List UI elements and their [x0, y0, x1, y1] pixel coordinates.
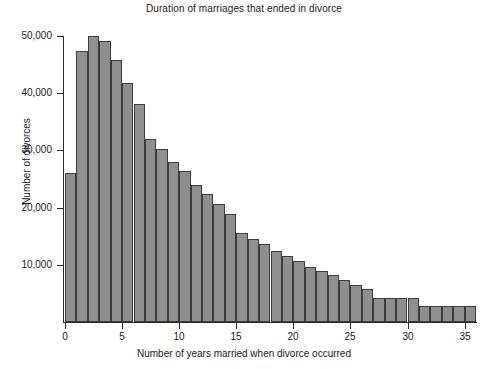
x-tick-label: 5 — [107, 331, 137, 342]
histogram-bar — [328, 275, 339, 322]
histogram-bar — [248, 239, 259, 323]
histogram-bar — [134, 104, 145, 323]
plot-area — [65, 36, 476, 322]
y-tick-label: 10,000 — [0, 259, 52, 270]
x-tick-mark — [293, 322, 294, 329]
histogram-bar — [396, 298, 407, 322]
y-tick-mark — [57, 265, 64, 266]
histogram-bar — [339, 280, 350, 322]
histogram-figure: Duration of marriages that ended in divo… — [0, 0, 488, 369]
histogram-bar — [65, 173, 76, 322]
y-tick-mark — [57, 208, 64, 209]
x-tick-label: 20 — [278, 331, 308, 342]
histogram-bar — [259, 244, 270, 322]
x-tick-label: 30 — [393, 331, 423, 342]
histogram-bar — [145, 139, 156, 322]
histogram-bar — [122, 83, 133, 322]
histogram-bar — [168, 162, 179, 322]
histogram-bar — [271, 251, 282, 322]
x-tick-mark — [350, 322, 351, 329]
histogram-bar — [453, 306, 464, 322]
x-tick-mark — [465, 322, 466, 329]
histogram-bar — [282, 256, 293, 322]
x-tick-mark — [236, 322, 237, 329]
x-tick-label: 0 — [50, 331, 80, 342]
histogram-bar — [76, 51, 87, 322]
histogram-bar — [373, 298, 384, 322]
histogram-bar — [385, 298, 396, 322]
x-axis-title: Number of years married when divorce occ… — [0, 348, 488, 359]
histogram-bar — [430, 306, 441, 322]
y-tick-mark — [57, 93, 64, 94]
y-tick-mark — [57, 36, 64, 37]
histogram-bar — [236, 233, 247, 322]
histogram-bar — [88, 36, 99, 322]
y-tick-label: 50,000 — [0, 30, 52, 41]
x-tick-label: 15 — [221, 331, 251, 342]
x-tick-mark — [122, 322, 123, 329]
histogram-bar — [350, 285, 361, 322]
x-axis-line — [63, 322, 477, 323]
x-tick-mark — [179, 322, 180, 329]
x-tick-label: 35 — [450, 331, 480, 342]
bars-layer — [65, 36, 476, 322]
histogram-bar — [225, 214, 236, 322]
y-axis-line — [63, 36, 64, 323]
chart-title: Duration of marriages that ended in divo… — [0, 3, 488, 14]
histogram-bar — [111, 60, 122, 322]
histogram-bar — [99, 41, 110, 322]
histogram-bar — [465, 306, 476, 322]
histogram-bar — [156, 149, 167, 322]
y-axis-title: Number of divorces — [21, 92, 32, 232]
histogram-bar — [202, 194, 213, 322]
histogram-bar — [419, 306, 430, 322]
histogram-bar — [179, 171, 190, 322]
histogram-bar — [442, 306, 453, 322]
x-tick-label: 25 — [335, 331, 365, 342]
histogram-bar — [305, 267, 316, 322]
histogram-bar — [408, 298, 419, 322]
y-tick-mark — [57, 150, 64, 151]
histogram-bar — [213, 204, 224, 322]
histogram-bar — [191, 185, 202, 322]
x-tick-label: 10 — [164, 331, 194, 342]
x-tick-mark — [408, 322, 409, 329]
histogram-bar — [316, 271, 327, 322]
histogram-bar — [293, 261, 304, 322]
histogram-bar — [362, 289, 373, 322]
x-tick-mark — [65, 322, 66, 329]
